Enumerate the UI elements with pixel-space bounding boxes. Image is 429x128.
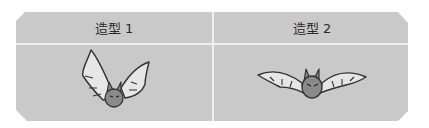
costume-1-column: 造型 1	[16, 12, 212, 121]
costume-2-sprite	[214, 45, 410, 121]
costume-table: 造型 1 造型 2	[16, 12, 408, 121]
costume-2-column: 造型 2	[214, 12, 410, 121]
bat-wings-spread-icon	[256, 65, 368, 105]
costume-1-sprite	[16, 45, 212, 121]
costume-2-label: 造型 2	[214, 12, 410, 43]
costume-1-label: 造型 1	[16, 12, 212, 43]
bat-wings-up-icon	[79, 48, 159, 118]
